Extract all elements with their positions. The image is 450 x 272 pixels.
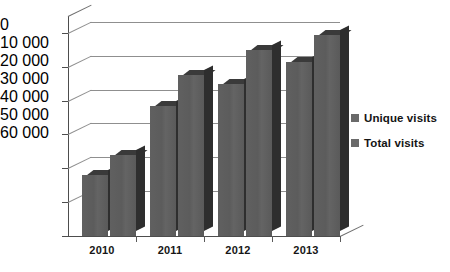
- y-axis-tick: [62, 236, 68, 237]
- y-axis-tick: [62, 168, 68, 169]
- x-axis-tick-label: 2010: [72, 244, 132, 256]
- x-axis-tick: [204, 236, 205, 242]
- gridline: [90, 22, 340, 23]
- bar-2012-unique: [218, 84, 244, 236]
- y-axis-tick-label: 40 000: [0, 88, 62, 106]
- bar-side-face: [136, 145, 145, 231]
- x-axis-tick: [272, 236, 273, 242]
- bar-front-face: [110, 155, 136, 236]
- bar-chart: 010 00020 00030 00040 00050 00060 000 Un…: [0, 0, 450, 272]
- x-axis-tick-label: 2011: [140, 244, 200, 256]
- legend-item[interactable]: Unique visits: [351, 112, 437, 124]
- chart-legend: Unique visitsTotal visits: [351, 112, 437, 162]
- gridline-connector: [68, 22, 92, 34]
- x-axis-tick: [136, 236, 137, 242]
- x-axis-tick-label: 2012: [208, 244, 268, 256]
- gridline-connector: [68, 157, 92, 169]
- bar-2010-total: [110, 155, 136, 236]
- bar-side-face: [204, 66, 213, 231]
- y-axis-labels: 010 00020 00030 00040 00050 00060 000: [0, 16, 62, 236]
- y-axis-tick-label: 20 000: [0, 52, 62, 70]
- y-axis-tick: [62, 67, 68, 68]
- gridline-connector: [68, 55, 92, 67]
- bar-side-face: [340, 25, 349, 231]
- bar-2013-unique: [286, 62, 312, 236]
- y-axis-tick: [62, 33, 68, 34]
- y-axis-tick: [62, 134, 68, 135]
- legend-label: Unique visits: [364, 112, 437, 124]
- y-axis-tick-label: 30 000: [0, 70, 62, 88]
- y-axis-tick: [62, 101, 68, 102]
- gridline-connector: [68, 89, 92, 101]
- bar-2013-total: [314, 35, 340, 236]
- bar-front-face: [314, 35, 340, 236]
- bar-front-face: [246, 50, 272, 236]
- bar-front-face: [150, 106, 176, 236]
- x-axis-tick-label: 2013: [276, 244, 336, 256]
- y-axis-tick: [62, 202, 68, 203]
- legend-swatch-icon: [351, 139, 359, 147]
- legend-swatch-icon: [351, 114, 359, 122]
- bar-2012-total: [246, 50, 272, 236]
- y-axis-tick-label: 50 000: [0, 106, 62, 124]
- plot-area: [68, 16, 340, 236]
- bar-2010-unique: [82, 175, 108, 236]
- y-axis-tick-label: 0: [0, 16, 62, 34]
- bar-2011-total: [178, 75, 204, 236]
- bar-front-face: [286, 62, 312, 236]
- x-axis-tick: [340, 236, 341, 242]
- legend-label: Total visits: [364, 137, 424, 149]
- bar-front-face: [178, 75, 204, 236]
- gridline-connector: [68, 123, 92, 135]
- legend-item[interactable]: Total visits: [351, 137, 437, 149]
- y-axis-tick-label: 10 000: [0, 34, 62, 52]
- bar-front-face: [82, 175, 108, 236]
- bar-2011-unique: [150, 106, 176, 236]
- y-axis-tick-label: 60 000: [0, 124, 62, 142]
- bar-side-face: [272, 40, 281, 231]
- bar-front-face: [218, 84, 244, 236]
